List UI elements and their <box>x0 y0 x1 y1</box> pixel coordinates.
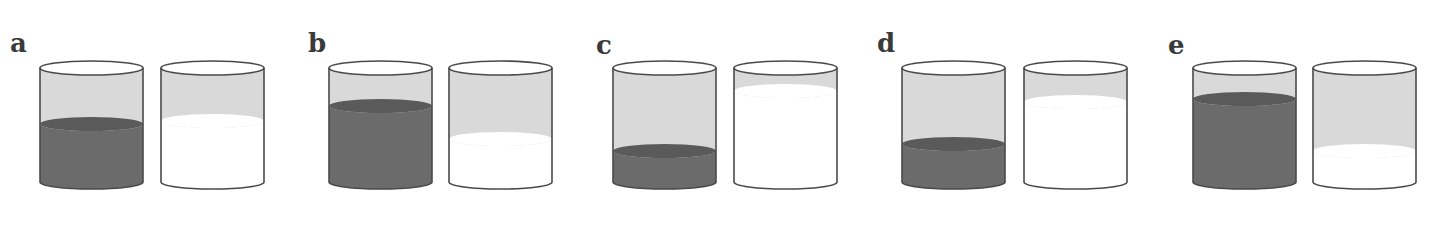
liquid-surface <box>902 137 1005 151</box>
liquid-surface <box>329 99 432 113</box>
cylinder-left <box>329 61 432 189</box>
white-surface <box>1313 144 1416 158</box>
cylinder-left <box>902 61 1005 189</box>
cylinder-rim <box>902 61 1005 75</box>
white-surface <box>734 84 837 98</box>
cylinder-rim <box>1313 61 1416 75</box>
liquid-surface <box>613 144 716 158</box>
liquid-surface <box>40 117 143 131</box>
cylinder-rim <box>1024 61 1127 75</box>
cylinder-right <box>1313 61 1416 189</box>
cylinder-left <box>1193 61 1296 189</box>
cylinder-left <box>40 61 143 189</box>
cylinder-rim <box>449 61 552 75</box>
cylinder-rim <box>329 61 432 75</box>
white-surface <box>449 132 552 146</box>
beaker-comparison-diagram <box>0 0 1431 237</box>
liquid-surface <box>1193 92 1296 106</box>
cylinder-rim <box>161 61 264 75</box>
cylinder-rim <box>734 61 837 75</box>
white-surface <box>1024 95 1127 109</box>
cylinder-right <box>734 61 837 189</box>
cylinder-rim <box>613 61 716 75</box>
cylinder-right <box>161 61 264 189</box>
cylinder-right <box>1024 61 1127 189</box>
cylinder-right <box>449 61 552 189</box>
cylinder-rim <box>40 61 143 75</box>
white-surface <box>161 114 264 128</box>
cylinder-left <box>613 61 716 189</box>
cylinder-rim <box>1193 61 1296 75</box>
